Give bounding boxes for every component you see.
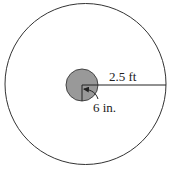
inner-radius-label: 6 in.: [93, 101, 116, 114]
concentric-circles-diagram: [0, 0, 171, 169]
outer-radius-label: 2.5 ft: [109, 70, 136, 83]
